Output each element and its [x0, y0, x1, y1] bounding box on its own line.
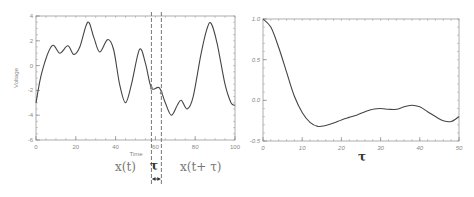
y-tick-label: 4	[30, 13, 34, 19]
tau-window-label: τ	[150, 159, 158, 173]
y-tick-label: 0	[30, 63, 34, 69]
x-tick-label: 60	[152, 144, 159, 150]
y-tick-label: -2	[28, 87, 34, 93]
x-t-plus-tau-label: x(t+ τ)	[180, 160, 221, 174]
x-tick-label: 20	[337, 145, 345, 151]
x-tick-label: 80	[192, 144, 199, 150]
chart-canvas: 020406080100420-2-4-6VoltageTime 0102030…	[0, 0, 474, 197]
series-line	[263, 19, 459, 127]
series-line	[36, 22, 235, 115]
x-axis-label: Time	[129, 151, 143, 157]
x-tick-label: 40	[112, 144, 119, 150]
x-tick-label: 40	[416, 145, 423, 151]
x-tick-label: 10	[299, 145, 306, 151]
y-tick-label: 2	[30, 38, 34, 44]
x-tick-label: 20	[72, 144, 79, 150]
x-tick-label: 100	[230, 144, 241, 150]
y-tick-label: -6	[28, 137, 34, 143]
autocorrelation-chart: 010203040501.00.50.0-0.5	[250, 16, 463, 151]
y-tick-label: -0.5	[250, 138, 261, 144]
y-tick-label: 0.5	[252, 57, 261, 63]
y-tick-label: -4	[28, 112, 34, 118]
x-t-label: x(t)	[115, 160, 136, 174]
x-tick-label: 0	[261, 145, 265, 151]
y-tick-label: 1.0	[252, 16, 261, 22]
point-marker	[160, 91, 163, 94]
y-tick-label: 0.0	[252, 97, 261, 103]
right-x-axis-label: τ	[358, 150, 366, 164]
y-axis-label: Voltage	[13, 67, 19, 88]
plot-frame	[263, 19, 459, 141]
point-marker	[150, 86, 153, 89]
x-tick-label: 0	[34, 144, 38, 150]
x-tick-label: 50	[456, 145, 463, 151]
x-tick-label: 30	[377, 145, 384, 151]
